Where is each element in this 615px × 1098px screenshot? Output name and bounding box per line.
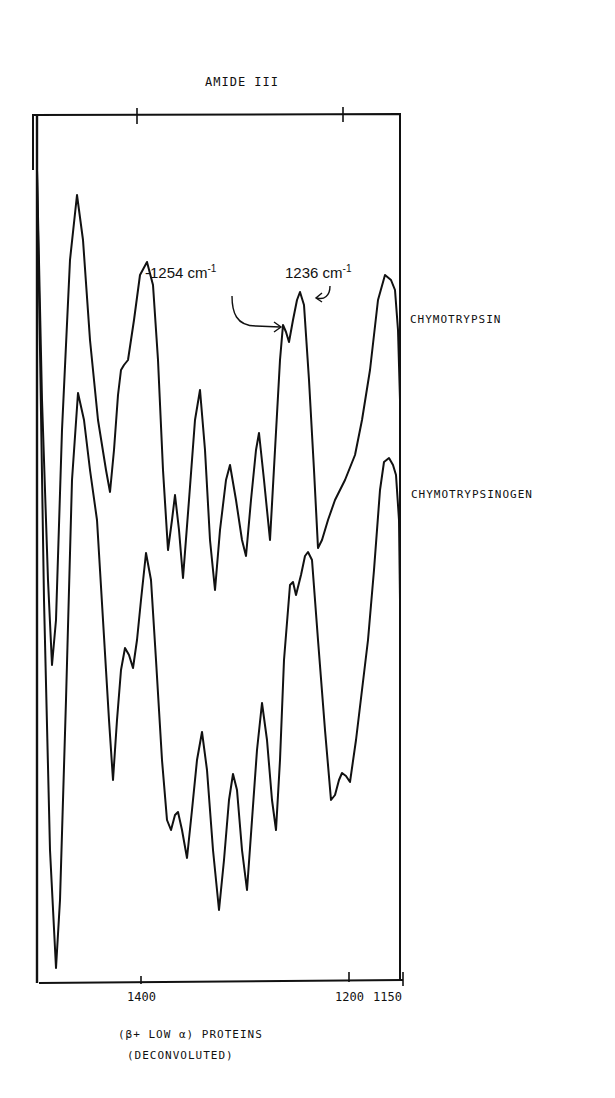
annotation-1236-sup: -1 (343, 263, 352, 274)
x-axis-label-line2: (DECONVOLUTED) (127, 1049, 234, 1062)
trace-chymotrypsin (37, 170, 400, 665)
x-axis-label-line1: (β+ LOW α) PROTEINS (118, 1028, 263, 1041)
annotation-arrows (232, 286, 330, 332)
annotation-1254-sup: -1 (208, 263, 217, 274)
chart-title: AMIDE III (205, 75, 279, 89)
spectrum-plot (0, 0, 615, 1098)
annotation-1254: -1254 cm-1 (145, 263, 216, 281)
trace-chymotrypsinogen (37, 170, 400, 968)
annotation-1254-text: -1254 cm (145, 264, 208, 281)
annotation-1236: 1236 cm-1 (285, 263, 351, 281)
x-tick-1200: 1200 (335, 990, 364, 1004)
series-label-chymotrypsinogen: CHYMOTRYPSINOGEN (411, 488, 533, 501)
x-tick-1400: 1400 (127, 990, 156, 1004)
series-label-chymotrypsin: CHYMOTRYPSIN (410, 313, 501, 326)
annotation-1236-text: 1236 cm (285, 264, 343, 281)
x-tick-1150: 1150 (373, 990, 402, 1004)
